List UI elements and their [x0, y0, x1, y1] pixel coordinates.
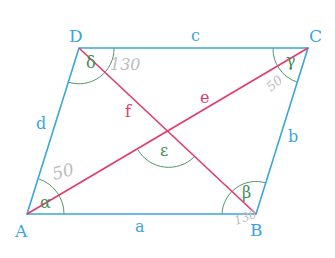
angle-label-delta: δ	[86, 53, 96, 72]
vertex-label-d: D	[69, 26, 83, 46]
side-label-b: b	[288, 127, 298, 146]
side-label-a: a	[135, 217, 145, 236]
diagonal-label-e: e	[200, 88, 209, 107]
angle-label-alpha: α	[40, 193, 51, 212]
handwritten-value-alpha: 50	[50, 159, 76, 184]
vertex-label-a: A	[14, 221, 28, 241]
vertex-label-c: C	[309, 26, 322, 46]
vertex-label-b: B	[250, 220, 263, 240]
angle-label-gamma: γ	[286, 51, 296, 70]
vertex-labels: A B C D	[14, 26, 322, 241]
parallelogram-diagram: 50 130 50 130 A B C D a b c d e f α β γ	[0, 0, 335, 258]
diagonal-label-f: f	[125, 102, 132, 121]
diagonal-f	[79, 48, 256, 214]
angle-label-epsilon: ε	[160, 141, 168, 160]
angle-label-beta: β	[242, 183, 251, 202]
diagram-svg: 50 130 50 130 A B C D a b c d e f α β γ	[0, 0, 335, 258]
side-label-d: d	[36, 114, 46, 133]
handwritten-value-delta: 130	[110, 55, 141, 74]
diagonal-labels: e f	[125, 88, 209, 121]
handwritten-value-gamma: 50	[263, 72, 285, 94]
side-label-c: c	[191, 26, 200, 45]
